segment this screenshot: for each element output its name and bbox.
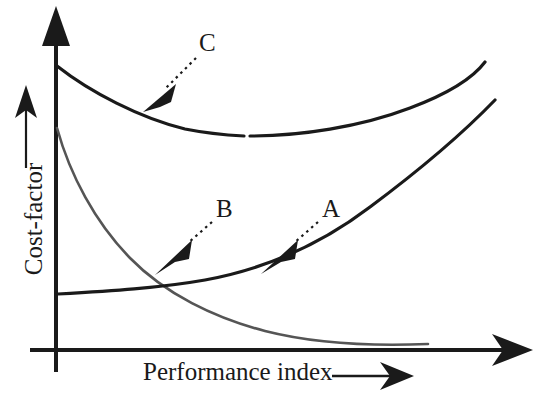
chart-canvas [0, 0, 551, 396]
annotation-leader-c [166, 58, 196, 88]
chart-figure: C B A Cost-factor Performance index [0, 0, 551, 396]
annotation-arrowhead-c-icon [143, 84, 176, 112]
y-axis-arrowhead-icon [42, 6, 70, 46]
curve-label-b: B [216, 196, 233, 221]
annotation-arrowhead-a-icon [261, 240, 298, 274]
curve-label-a: A [322, 196, 340, 221]
curve-c-left [57, 66, 244, 136]
curve-a [58, 100, 495, 294]
annotation-leader-b [188, 222, 212, 243]
curve-c-right [250, 62, 485, 136]
curve-label-c: C [199, 30, 216, 55]
annotation-arrowhead-b-icon [155, 240, 192, 275]
annotation-leader-a [294, 222, 318, 243]
x-axis-label: Performance index [143, 358, 333, 386]
y-axis-label: Cost-factor [20, 139, 48, 299]
curve-b [57, 128, 428, 345]
